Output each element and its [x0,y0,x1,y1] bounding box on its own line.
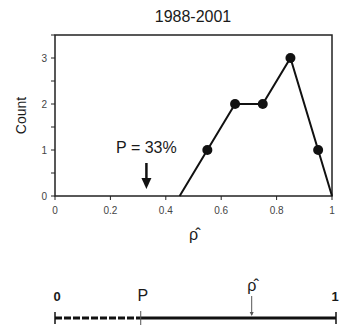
annotation-label: P = 33% [116,139,177,156]
number-line-end-label: 1 [331,289,338,304]
series-line [180,58,332,196]
y-tick-label: 1 [41,145,47,156]
number-line-p-label: P [137,287,148,304]
data-point [230,99,240,109]
data-point [202,145,212,155]
x-axis-label: ρ̂ [189,226,201,243]
x-tick-label: 1 [329,205,335,216]
chart: 1988-2001012300.20.40.60.81Countρ̂P = 33… [0,0,353,334]
y-tick-label: 3 [41,53,47,64]
x-tick-label: 0.4 [159,205,173,216]
number-line-start-label: 0 [53,289,60,304]
data-point [258,99,268,109]
y-tick-label: 0 [41,191,47,202]
data-point [313,145,323,155]
arrow-down-icon [250,312,254,316]
data-point [285,53,295,63]
number-line-rho-label: ρ̂ [247,277,259,294]
x-tick-label: 0 [52,205,58,216]
arrow-down-icon [141,178,151,189]
y-axis-label: Count [13,97,29,134]
x-tick-label: 0.6 [214,205,228,216]
chart-title: 1988-2001 [155,8,232,25]
x-tick-label: 0.8 [270,205,284,216]
y-tick-label: 2 [41,99,47,110]
x-tick-label: 0.2 [103,205,117,216]
